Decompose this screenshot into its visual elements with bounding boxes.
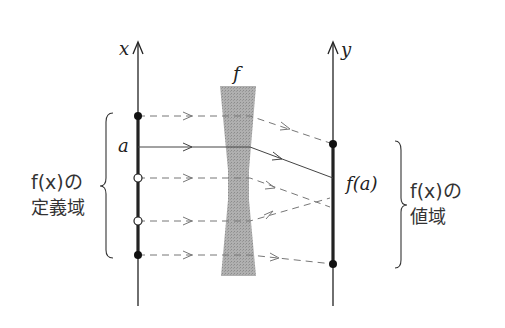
range-point-filled-bottom xyxy=(329,260,337,268)
range-label-line2: 値域 xyxy=(410,206,446,227)
x-axis: x xyxy=(119,38,143,306)
point-a-label: a xyxy=(118,135,129,156)
domain-label-line1: f(x)の xyxy=(31,171,83,193)
x-axis-label: x xyxy=(119,38,129,59)
domain-point-open-2 xyxy=(134,217,142,225)
image-fa-label: f(a) xyxy=(344,173,377,194)
arrowhead-icon xyxy=(280,122,290,130)
domain-point-filled-bottom xyxy=(134,251,142,259)
function-label: f xyxy=(231,62,243,84)
function-mapping-diagram: f x y xyxy=(0,0,505,328)
range-brace xyxy=(395,141,407,268)
domain-point-open-1 xyxy=(134,174,142,182)
range-label-line1: f(x)の xyxy=(410,180,462,202)
domain-label-line2: 定義域 xyxy=(31,197,85,218)
domain-brace xyxy=(100,113,113,258)
range-point-filled-top xyxy=(329,140,337,148)
y-axis-label: y xyxy=(340,39,352,60)
function-funnel xyxy=(220,86,256,276)
domain-point-filled-top xyxy=(134,112,142,120)
